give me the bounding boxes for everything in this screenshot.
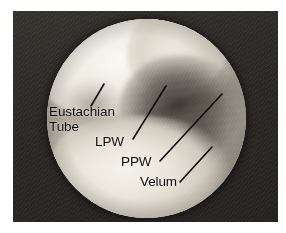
figure-root: Eustachian Tube LPW PPW Velum [0, 0, 286, 233]
label-velum: Velum [140, 175, 177, 190]
label-eustachian-tube-line2: Tube [49, 120, 115, 135]
label-eustachian-tube-line1: Eustachian [49, 105, 115, 120]
label-eustachian-tube: Eustachian Tube [49, 105, 115, 134]
label-lpw: LPW [95, 135, 124, 150]
label-ppw: PPW [121, 155, 151, 170]
